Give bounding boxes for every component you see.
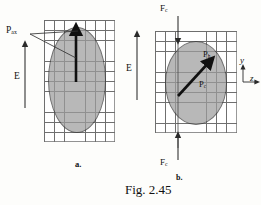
label-axis-z: z [250, 74, 254, 83]
label-f-c-top-subscript: c [165, 7, 167, 13]
vector-overlay [0, 0, 261, 205]
label-p-h-subscript: h [208, 53, 211, 59]
label-p-h: Ph [203, 50, 210, 59]
label-f-c-bottom-subscript: c [165, 161, 167, 167]
figure-container: Pax E a. E Fc Fc Ph Pc y z b. Fig. 2.45 [0, 0, 261, 205]
label-e-field-a: E [14, 72, 20, 82]
label-e-field-b: E [126, 64, 132, 74]
panel-a-p-ax-leader-line [30, 31, 78, 58]
figure-caption: Fig. 2.45 [125, 183, 172, 196]
label-p-c: Pc [199, 80, 206, 89]
label-p-ax: Pax [6, 26, 17, 36]
label-axis-y: y [240, 56, 244, 65]
label-f-c-top: Fc [160, 4, 168, 14]
label-p-ax-subscript: ax [11, 29, 17, 35]
panel-b-caption-label: b. [176, 174, 182, 182]
label-p-c-subscript: c [204, 83, 206, 89]
panel-a-caption-label: a. [75, 160, 81, 169]
panel-b-p-h-arrow [178, 60, 211, 96]
label-f-c-bottom: Fc [160, 158, 168, 168]
